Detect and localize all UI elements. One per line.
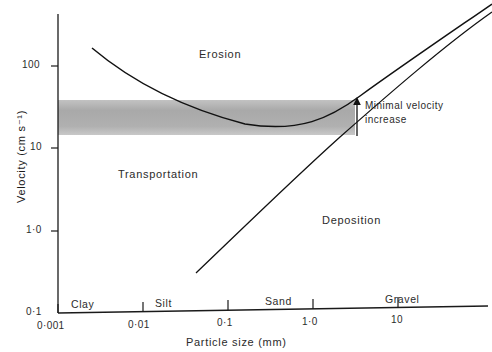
x-axis-title: Particle size (mm): [186, 336, 287, 348]
x-tick-label-10: 10: [391, 314, 403, 325]
annotation-minimal-velocity-line1: Minimal velocity: [365, 99, 444, 112]
zone-label-erosion: Erosion: [199, 48, 241, 60]
y-tick-label-0.1: 0·1: [26, 306, 42, 317]
y-tick-label-10: 10: [30, 141, 42, 152]
y-tick-label-1: 1·0: [26, 224, 42, 235]
hjulstrom-diagram: 100 10 1·0 0·1 Velocity (cm s⁻¹) 0·001 0…: [0, 0, 492, 352]
x-tick-label-0.001: 0·001: [37, 320, 65, 331]
minimal-velocity-band: [58, 100, 355, 135]
sediment-label-gravel: Gravel: [385, 293, 420, 305]
sediment-label-clay: Clay: [71, 298, 94, 310]
x-axis-line: [58, 306, 488, 313]
y-axis-title: Velocity (cm s⁻¹): [15, 102, 28, 212]
y-tick-label-100: 100: [22, 59, 40, 70]
x-tick-label-1.0: 1·0: [302, 316, 318, 327]
sediment-label-silt: Silt: [155, 297, 172, 309]
x-tick-label-0.1: 0·1: [217, 317, 233, 328]
zone-label-transportation: Transportation: [118, 168, 198, 180]
sediment-label-sand: Sand: [265, 295, 292, 307]
annotation-minimal-velocity-line2: increase: [365, 113, 407, 126]
zone-label-deposition: Deposition: [322, 214, 381, 226]
x-tick-label-0.01: 0·01: [128, 319, 150, 330]
